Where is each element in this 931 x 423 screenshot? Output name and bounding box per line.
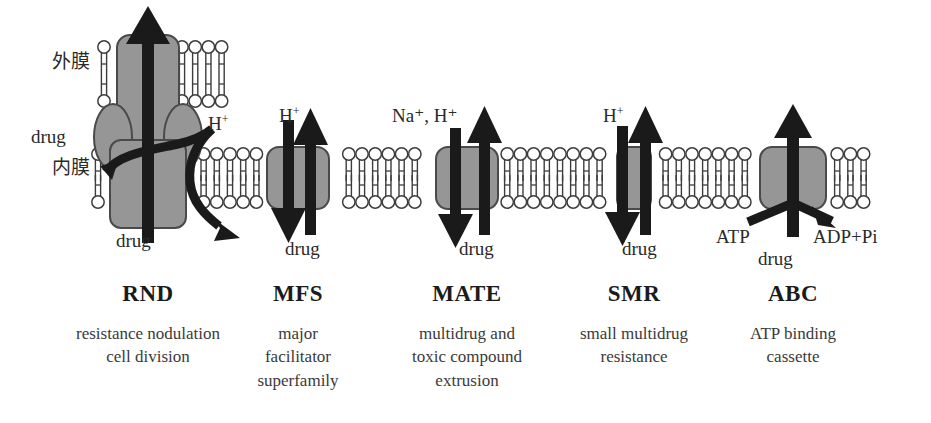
lipid-molecule xyxy=(739,148,751,181)
outer-membrane-label: 外膜 xyxy=(52,46,90,73)
pump-abc xyxy=(748,104,836,237)
mfs-ion-label: H+ xyxy=(279,104,300,127)
lipid-molecule xyxy=(514,148,526,181)
lipid-molecule xyxy=(189,74,201,107)
lipid-molecule xyxy=(250,148,262,181)
lipid-molecule xyxy=(237,175,249,208)
lipid-molecule xyxy=(699,175,711,208)
lipid-molecule xyxy=(725,148,737,181)
mfs-ion-arrow-shaft xyxy=(283,120,294,217)
lipid-molecule xyxy=(527,175,539,208)
lipid-molecule xyxy=(237,148,249,181)
lipid-molecule xyxy=(712,175,724,208)
family-desc-rnd: resistance nodulation cell division xyxy=(58,322,238,369)
lipid-molecule xyxy=(98,74,110,107)
lipid-molecule xyxy=(382,175,394,208)
lipid-molecule xyxy=(699,148,711,181)
family-desc-mfs: major facilitator superfamily xyxy=(238,322,358,392)
lipid-molecule xyxy=(593,175,605,208)
lipid-molecule xyxy=(92,175,104,208)
lipid-molecule xyxy=(409,148,421,181)
lipid-molecule xyxy=(567,148,579,181)
lipid-molecule xyxy=(369,175,381,208)
mate-ion-label: Na⁺, H⁺ xyxy=(392,104,457,127)
lipid-molecule xyxy=(593,148,605,181)
mfs-body xyxy=(267,147,329,209)
lipid-molecule xyxy=(567,175,579,208)
smr-ion-arrow-shaft xyxy=(617,126,628,225)
lipid-molecule xyxy=(857,175,869,208)
rnd-drug-arrow-shaft xyxy=(142,28,154,243)
mate-ion-arrow-shaft xyxy=(450,128,461,227)
lipid-molecule xyxy=(725,175,737,208)
rnd-drug-label: drug xyxy=(116,230,151,252)
pump-mfs xyxy=(267,108,329,243)
inner-membrane-label: 内膜 xyxy=(52,152,90,179)
lipid-molecule xyxy=(202,74,214,107)
lipid-molecule xyxy=(224,148,236,181)
lipid-molecule xyxy=(395,175,407,208)
mfs-drug-label: drug xyxy=(285,238,320,260)
mate-drug-arrow-head xyxy=(467,106,502,143)
lipid-molecule xyxy=(659,175,671,208)
family-desc-abc: ATP binding cassette xyxy=(723,322,863,369)
lipid-molecule xyxy=(501,175,513,208)
lipid-molecule xyxy=(356,175,368,208)
abc-drug-arrow-head xyxy=(774,104,812,138)
lipid-molecule xyxy=(250,175,262,208)
mate-drug-arrow-shaft xyxy=(479,138,490,235)
lipid-molecule xyxy=(712,148,724,181)
family-name-rnd: RND xyxy=(98,281,198,307)
abc-drug-label: drug xyxy=(758,248,793,270)
rnd-drug-arrow-head xyxy=(126,6,170,44)
lipid-molecule xyxy=(343,148,355,181)
lipid-molecule xyxy=(189,41,201,74)
family-name-smr: SMR xyxy=(584,281,684,307)
lipid-molecule xyxy=(541,175,553,208)
smr-ion-label: H+ xyxy=(603,104,624,127)
smr-drug-arrow-shaft xyxy=(640,138,651,235)
lipid-molecule xyxy=(831,148,843,181)
lipid-molecule xyxy=(580,175,592,208)
lipid-molecule xyxy=(739,175,751,208)
rnd-drug-label-periplasm: drug xyxy=(31,126,66,148)
lipid-molecule xyxy=(356,148,368,181)
mate-drug-label: drug xyxy=(459,238,494,260)
lipid-molecule xyxy=(343,175,355,208)
lipid-molecule xyxy=(202,41,214,74)
lipid-molecule xyxy=(409,175,421,208)
family-desc-mate: multidrug and toxic compound extrusion xyxy=(392,322,542,392)
family-desc-smr: small multidrug resistance xyxy=(559,322,709,369)
lipid-molecule xyxy=(98,41,110,74)
lipid-molecule xyxy=(844,148,856,181)
lipid-molecule xyxy=(382,148,394,181)
lipid-molecule xyxy=(554,148,566,181)
lipid-molecule xyxy=(224,175,236,208)
lipid-molecule xyxy=(686,148,698,181)
lipid-molecule xyxy=(673,175,685,208)
mfs-drug-arrow-shaft xyxy=(305,140,316,235)
pump-mate xyxy=(436,106,502,248)
lipid-molecule xyxy=(527,148,539,181)
lipid-molecule xyxy=(686,175,698,208)
rnd-proton-arrowhead xyxy=(213,218,240,241)
smr-drug-arrow-head xyxy=(628,106,663,143)
lipid-molecule xyxy=(541,148,553,181)
family-name-mfs: MFS xyxy=(248,281,348,307)
rnd-ion-label: H+ xyxy=(208,112,229,135)
lipid-molecule xyxy=(844,175,856,208)
family-name-abc: ABC xyxy=(743,281,843,307)
lipid-molecule xyxy=(215,74,227,107)
smr-drug-label: drug xyxy=(622,238,657,260)
efflux-pump-diagram: 外膜 内膜 drug drug H+ H+ drug Na⁺, H⁺ drug … xyxy=(0,0,931,423)
family-name-mate: MATE xyxy=(417,281,517,307)
lipid-molecule xyxy=(673,148,685,181)
lipid-molecule xyxy=(395,148,407,181)
lipid-molecule xyxy=(211,175,223,208)
lipid-molecule xyxy=(501,148,513,181)
abc-adp-label: ADP+Pi xyxy=(813,226,878,248)
abc-atp-label: ATP xyxy=(716,226,750,248)
lipid-molecule xyxy=(215,41,227,74)
lipid-molecule xyxy=(857,148,869,181)
lipid-molecule xyxy=(580,148,592,181)
